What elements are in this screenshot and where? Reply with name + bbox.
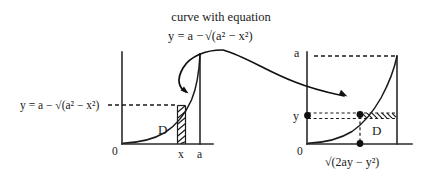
right-graph-dot-on-x-axis [357,140,364,147]
right-graph-dot-on-y-axis [304,112,311,119]
left-graph-region-label: D [158,122,167,137]
right-graph-curve [308,56,397,143]
left-graph-hatched-strip [178,106,186,144]
right-graph-y-top-label: a [294,46,300,60]
right-graph-origin-label: 0 [297,145,303,157]
left-graph-x-tick-label: x [178,148,184,160]
right-graph: a y 0 D √(2ay − y²) [293,46,412,169]
right-graph-x-expression-label: √(2ay − y²) [325,155,379,169]
right-graph-y-tick-label: y [293,109,299,123]
right-graph-region-label: D [372,123,381,138]
left-graph-x-end-label: a [197,148,202,160]
left-graph: D y = a − √(a² − x²) 0 x a [20,52,213,160]
annotation-arrows [179,50,347,97]
figure-canvas: curve with equation y = a − √(a² − x²) [0,0,421,173]
caption-line-2: y = a − √(a² − x²) [168,29,253,43]
math-figure: curve with equation y = a − √(a² − x²) [0,0,421,173]
arrow-to-right-curve [223,50,344,96]
left-graph-y-axis-label: y = a − √(a² − x²) [20,99,99,112]
right-graph-dot-on-curve [357,111,364,118]
caption-equation-prefix: y = a − [168,29,206,43]
caption-equation-radical: √(a² − x²) [205,29,253,43]
caption-line-1: curve with equation [171,10,271,24]
left-graph-origin-label: 0 [112,145,118,157]
